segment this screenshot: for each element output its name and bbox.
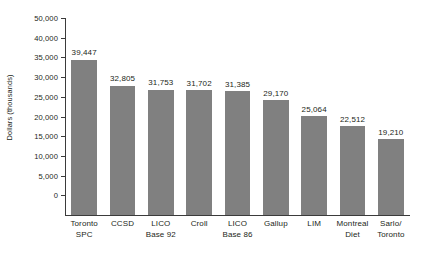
bar-value-label: 25,064 [302,105,327,114]
x-category-label: TorontoSPC [65,219,103,240]
y-tick-label: 15,000 [34,132,58,141]
bar-group: 31,702 [186,18,212,215]
x-category-label-line1: Sarlo/ [380,219,402,228]
x-category-label: CCSD [103,219,141,230]
bar-group: 19,210 [378,18,404,215]
x-category-label-line1: CCSD [111,219,134,228]
y-tick-label: 30,000 [34,73,58,82]
bar-chart-figure: Dollars (thousands) 50,00040,00035,00030… [0,0,421,257]
bar [148,90,174,215]
bar [71,60,97,215]
x-axis-category-labels: TorontoSPCCCSDLICOBase 92CrollLICOBase 8… [65,219,410,255]
bar-value-label: 32,805 [110,74,135,83]
bar-group: 22,512 [340,18,366,215]
bar-value-label: 29,170 [263,89,288,98]
bar-value-label: 31,753 [148,78,173,87]
bar [186,90,212,215]
x-category-label-line1: Gallup [264,219,288,228]
y-tick-label: 50,000 [34,14,58,23]
bar-group: 31,753 [148,18,174,215]
bar-value-label: 22,512 [340,115,365,124]
x-category-label: LICOBase 92 [142,219,180,240]
bar [301,116,327,215]
bar-group: 31,385 [225,18,251,215]
y-tick-label: 35,000 [34,53,58,62]
bar [340,126,366,215]
x-category-label-line2: Diet [333,230,371,241]
bar-value-label: 31,702 [187,79,212,88]
bar-value-label: 39,447 [72,48,97,57]
y-tick-label: 25,000 [34,92,58,101]
x-category-label-line2: Toronto [372,230,410,241]
y-tick-label: 10,000 [34,151,58,160]
bar-group: 32,805 [110,18,136,215]
x-category-label-line1: LICO [151,219,170,228]
x-category-label-line1: Toronto [70,219,97,228]
plot-area: 50,00040,00035,00030,00025,00020,00015,0… [65,18,410,215]
bar-value-label: 31,385 [225,80,250,89]
bars-layer: 39,44732,80531,75331,70231,38529,17025,0… [65,18,410,215]
bar-value-label: 19,210 [378,128,403,137]
x-category-label: LIM [295,219,333,230]
x-category-label: Sarlo/Toronto [372,219,410,240]
x-category-label-line1: Croll [191,219,208,228]
bar-group: 25,064 [301,18,327,215]
x-axis-line [65,215,410,216]
bar [263,100,289,215]
x-category-label-line1: Montreal [337,219,369,228]
y-tick-label: 0 [54,191,58,200]
x-category-label-line1: LICO [228,219,247,228]
y-axis-title: Dollars (thousands) [0,0,20,215]
y-axis-title-text: Dollars (thousands) [6,75,15,141]
bar-group: 29,170 [263,18,289,215]
bar [110,86,136,215]
x-category-label-line2: Base 86 [218,230,256,241]
bar [378,139,404,215]
x-category-label: Gallup [257,219,295,230]
y-tick-label: 40,000 [34,33,58,42]
x-category-label-line2: Base 92 [142,230,180,241]
x-category-label: Croll [180,219,218,230]
x-category-label-line2: SPC [65,230,103,241]
x-category-label-line1: LIM [307,219,321,228]
x-category-label: LICOBase 86 [218,219,256,240]
x-category-label: MontrealDiet [333,219,371,240]
bar [225,91,251,215]
bar-group: 39,447 [71,18,97,215]
y-tick-label: 20,000 [34,112,58,121]
y-tick-label: 5,000 [38,171,58,180]
